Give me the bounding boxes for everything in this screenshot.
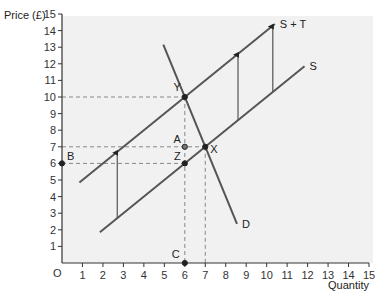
y-tick-label-2: 2 (50, 224, 56, 236)
y-tick-label-8: 8 (50, 124, 56, 136)
point-x (203, 144, 208, 149)
curve-label-d: D (242, 218, 250, 230)
y-axis-label: Price (£) (4, 9, 46, 21)
x-tick-label-8: 8 (223, 269, 229, 281)
y-tick-label-14: 14 (44, 25, 56, 37)
x-tick-label-1: 1 (79, 269, 85, 281)
y-tick-label-4: 4 (50, 191, 56, 203)
point-label-c: C (172, 248, 180, 260)
point-label-a: A (173, 133, 181, 145)
point-label-x: X (210, 143, 218, 155)
point-y (182, 94, 187, 99)
y-tick-label-3: 3 (50, 207, 56, 219)
supply-demand-chart: SS + TD 12345678910111213141512345678910… (0, 0, 382, 294)
x-axis-label: Quantity (328, 279, 369, 291)
y-tick-label-15: 15 (44, 8, 56, 20)
x-tick-label-7: 7 (202, 269, 208, 281)
origin-label: O (53, 267, 62, 279)
x-tick-label-2: 2 (100, 269, 106, 281)
point-label-b: B (67, 150, 74, 162)
y-tick-label-13: 13 (44, 41, 56, 53)
point-b (59, 161, 64, 166)
point-z (182, 161, 187, 166)
x-tick-label-6: 6 (182, 269, 188, 281)
curve-label-s: S (310, 60, 317, 72)
x-tick-label-12: 12 (301, 269, 313, 281)
y-tick-label-9: 9 (50, 108, 56, 120)
x-tick-label-10: 10 (261, 269, 273, 281)
point-label-z: Z (174, 150, 181, 162)
x-tick-label-11: 11 (281, 269, 292, 281)
x-tick-label-4: 4 (141, 269, 147, 281)
y-tick-label-11: 11 (45, 74, 56, 86)
y-tick-label-10: 10 (44, 91, 56, 103)
y-tick-label-6: 6 (50, 157, 56, 169)
y-tick-label-12: 12 (44, 58, 56, 70)
y-tick-label-7: 7 (50, 141, 56, 153)
x-tick-label-3: 3 (120, 269, 126, 281)
curve-label-s-t: S + T (280, 18, 307, 30)
x-tick-label-5: 5 (161, 269, 167, 281)
point-c (182, 260, 187, 265)
y-tick-label-1: 1 (50, 240, 56, 252)
x-tick-label-9: 9 (243, 269, 249, 281)
point-a (182, 144, 187, 149)
y-tick-label-5: 5 (50, 174, 56, 186)
point-label-y: Y (173, 81, 181, 93)
